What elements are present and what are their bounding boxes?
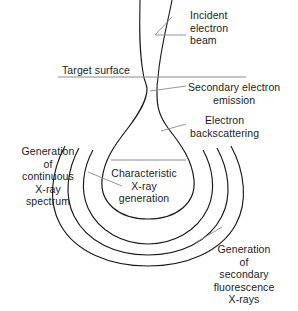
label-secondary-fluorescence-xrays: Generation of secondary fluorescence X-r…	[198, 243, 290, 306]
beam-line-left	[140, 0, 147, 89]
label-continuous-xray-spectrum: Generation of continuous X-ray spectrum	[6, 145, 90, 208]
leader-secondary-fluorescence	[195, 227, 222, 243]
label-incident-electron-beam: Incident electron beam	[190, 9, 228, 47]
leader-secondary-emission	[150, 86, 186, 91]
incident-electron-beam	[140, 0, 172, 89]
electron-beam-interaction-diagram: Incident electron beam Target surface Se…	[0, 0, 298, 311]
leader-incident-beam	[155, 17, 186, 35]
label-target-surface: Target surface	[62, 64, 130, 77]
label-electron-backscattering: Electron backscattering	[190, 114, 259, 139]
label-secondary-electron-emission: Secondary electron emission	[188, 81, 280, 106]
beam-line-right	[157, 0, 172, 89]
leader-electron-backscattering	[161, 124, 186, 131]
label-characteristic-xray-generation: Characteristic X-ray generation	[98, 167, 190, 205]
